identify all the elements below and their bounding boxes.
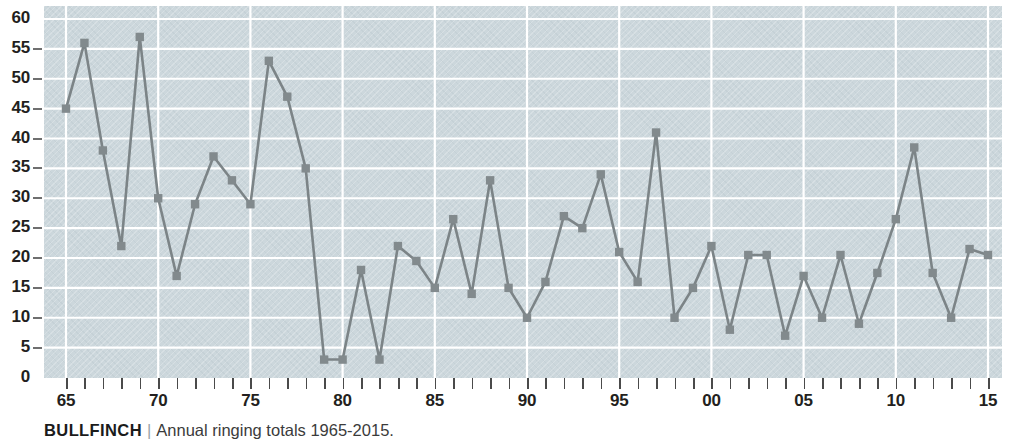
- x-axis-tick-2010: [896, 378, 898, 389]
- x-axis-tick-1989: [509, 378, 511, 389]
- line-chart-svg: 1965: 451966: 561967: 381968: 221969: 57…: [44, 6, 1002, 378]
- x-axis-tick-2004: [785, 378, 787, 389]
- data-point-marker: 1998: 10: [670, 314, 678, 322]
- y-axis-tick-25: [33, 227, 42, 229]
- data-point-marker: 1989: 15: [504, 284, 512, 292]
- x-axis-tick-1976: [269, 378, 271, 389]
- data-point-marker: 1992: 27: [560, 212, 568, 220]
- x-axis-tick-2002: [748, 378, 750, 389]
- data-point-marker: 1977: 47: [283, 92, 291, 100]
- y-axis-tick-40: [33, 138, 42, 140]
- y-axis-tick-30: [33, 197, 42, 199]
- x-axis-tick-1969: [140, 378, 142, 389]
- data-point-marker: 1966: 56: [80, 39, 88, 47]
- x-axis-tick-1992: [564, 378, 566, 389]
- data-point-marker: 1967: 38: [99, 146, 107, 154]
- x-axis-tick-1987: [472, 378, 474, 389]
- x-axis-tick-2011: [914, 378, 916, 389]
- x-axis-tick-1979: [324, 378, 326, 389]
- data-point-marker: 1986: 26.5: [449, 215, 457, 223]
- data-point-marker: 1984: 19.5: [412, 257, 420, 265]
- x-axis-tick-2007: [840, 378, 842, 389]
- y-axis-label-35: 35: [0, 157, 30, 177]
- x-axis-tick-1965: [66, 378, 68, 389]
- data-point-marker: 1979: 3: [320, 355, 328, 363]
- data-point-marker: 1997: 41: [652, 128, 660, 136]
- x-axis-tick-2009: [877, 378, 879, 389]
- data-point-marker: 2005: 17: [799, 272, 807, 280]
- x-axis: 6570758085909500051015: [44, 378, 1002, 422]
- x-axis-label-10: 10: [887, 391, 906, 411]
- x-axis-tick-2015: [988, 378, 990, 389]
- y-axis-label-5: 5: [0, 337, 30, 357]
- x-axis-tick-1975: [250, 378, 252, 389]
- data-point-marker: 1985: 15: [431, 284, 439, 292]
- y-axis-label-20: 20: [0, 247, 30, 267]
- x-axis-label-15: 15: [979, 391, 998, 411]
- y-axis-label-0: 0: [0, 367, 30, 387]
- data-point-marker: 1983: 22: [394, 242, 402, 250]
- data-point-marker: 2011: 38.5: [910, 143, 918, 151]
- x-axis-tick-1995: [619, 378, 621, 389]
- data-point-marker: 1965: 45: [62, 104, 70, 112]
- data-point-marker: 2002: 20.5: [744, 251, 752, 259]
- x-axis-tick-1978: [306, 378, 308, 389]
- x-axis-label-05: 05: [794, 391, 813, 411]
- y-axis-tick-45: [33, 108, 42, 110]
- x-axis-tick-1997: [656, 378, 658, 389]
- x-axis-tick-2006: [822, 378, 824, 389]
- data-point-marker: 2014: 21.5: [965, 245, 973, 253]
- y-axis-tick-35: [33, 167, 42, 169]
- x-axis-tick-2000: [711, 378, 713, 389]
- y-axis-label-25: 25: [0, 217, 30, 237]
- x-axis-tick-1983: [398, 378, 400, 389]
- x-axis-label-65: 65: [57, 391, 76, 411]
- x-axis-tick-1984: [416, 378, 418, 389]
- y-axis-label-30: 30: [0, 187, 30, 207]
- data-point-marker: 1999: 15: [689, 284, 697, 292]
- x-axis-tick-2008: [859, 378, 861, 389]
- x-axis-tick-2003: [767, 378, 769, 389]
- y-axis-tick-5: [33, 347, 42, 349]
- figure-caption: BULLFINCH|Annual ringing totals 1965-201…: [44, 421, 394, 440]
- y-axis-label-50: 50: [0, 68, 30, 88]
- data-point-marker: 1978: 35: [302, 164, 310, 172]
- data-point-marker: 1971: 17: [172, 272, 180, 280]
- data-point-marker: 1974: 33: [228, 176, 236, 184]
- data-point-marker: 1968: 22: [117, 242, 125, 250]
- bullfinch-ringing-totals-figure: 051015202530354045505560 1965: 451966: 5…: [0, 0, 1013, 444]
- x-axis-tick-1994: [601, 378, 603, 389]
- plot-area: 1965: 451966: 561967: 381968: 221969: 57…: [44, 6, 1002, 378]
- x-axis-tick-2013: [951, 378, 953, 389]
- y-axis-tick-10: [33, 317, 42, 319]
- x-axis-tick-1982: [379, 378, 381, 389]
- data-point-marker: 1975: 29: [246, 200, 254, 208]
- x-axis-tick-1970: [158, 378, 160, 389]
- data-point-marker: 2004: 7: [781, 331, 789, 339]
- y-axis-tick-15: [33, 287, 42, 289]
- x-axis-label-75: 75: [241, 391, 260, 411]
- data-point-marker: 1969: 57: [136, 33, 144, 41]
- data-point-marker: 1996: 16: [633, 278, 641, 286]
- data-point-marker: 2013: 10: [947, 314, 955, 322]
- x-axis-tick-1973: [214, 378, 216, 389]
- y-axis-tick-55: [33, 48, 42, 50]
- data-point-marker: 1970: 30: [154, 194, 162, 202]
- x-axis-tick-1991: [545, 378, 547, 389]
- data-point-marker: 1991: 16: [541, 278, 549, 286]
- x-axis-tick-1977: [287, 378, 289, 389]
- x-axis-tick-1966: [84, 378, 86, 389]
- x-axis-tick-2014: [970, 378, 972, 389]
- data-point-marker: 2009: 17.5: [873, 269, 881, 277]
- y-axis-label-55: 55: [0, 38, 30, 58]
- x-axis-label-95: 95: [610, 391, 629, 411]
- data-point-marker: 2001: 8: [726, 326, 734, 334]
- x-axis-tick-2005: [804, 378, 806, 389]
- x-axis-tick-2001: [730, 378, 732, 389]
- x-axis-tick-1967: [103, 378, 105, 389]
- caption-species-name: BULLFINCH: [44, 421, 142, 439]
- x-axis-tick-1990: [527, 378, 529, 389]
- caption-separator: |: [142, 421, 156, 439]
- data-point-marker: 2015: 20.5: [984, 251, 992, 259]
- x-axis-label-85: 85: [426, 391, 445, 411]
